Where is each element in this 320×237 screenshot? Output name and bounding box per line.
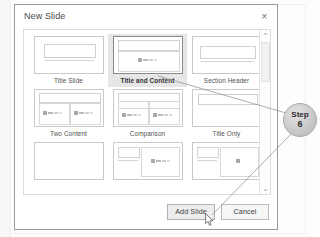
content-placeholder-icon: [43, 111, 62, 115]
step-callout-word: Step: [291, 111, 308, 119]
layout-thumbnail[interactable]: [192, 36, 262, 74]
content-placeholder-icon: [122, 113, 141, 117]
layout-thumbnail[interactable]: [192, 89, 262, 127]
content-placeholder-icon: [138, 58, 157, 62]
layout-option-comparison[interactable]: Comparison: [108, 87, 187, 140]
layout-thumbnail[interactable]: [113, 36, 183, 74]
dialog-title-bar: New Slide ×: [15, 5, 277, 30]
layout-option-label: Two Content: [50, 130, 87, 137]
picture-placeholder-icon: [236, 159, 240, 163]
layout-option-title-and-content[interactable]: Title and Content: [108, 34, 187, 87]
layout-thumbnail[interactable]: [34, 142, 104, 180]
layout-option-label: Title Only: [213, 130, 241, 137]
layout-thumbnail[interactable]: [192, 142, 262, 180]
layout-gallery-panel[interactable]: Title SlideTitle and ContentSection Head…: [23, 29, 271, 195]
thumb-caption-title: [118, 147, 140, 158]
layout-option-label: Title Slide: [54, 77, 83, 84]
layout-option-label: Comparison: [130, 130, 165, 137]
thumb-caption-line: [197, 160, 217, 161]
layout-gallery-grid: Title SlideTitle and ContentSection Head…: [24, 30, 270, 192]
layout-thumbnail[interactable]: [113, 142, 183, 180]
new-slide-dialog: New Slide × Title SlideTitle and Content…: [14, 4, 278, 230]
gallery-scrollbar[interactable]: ⌃ ⌄: [259, 30, 270, 194]
thumb-title-box: [200, 46, 256, 59]
layout-option-label: Section Header: [204, 77, 249, 84]
layout-option-blank[interactable]: [29, 140, 108, 192]
page-left-strip: [0, 0, 11, 237]
step-callout-number: 6: [297, 120, 302, 129]
thumb-subtitle-line: [44, 60, 94, 61]
layout-option-section-header[interactable]: Section Header: [187, 34, 266, 87]
layout-option-title-slide[interactable]: Title Slide: [29, 34, 108, 87]
close-icon[interactable]: ×: [258, 10, 271, 23]
thumb-title-box: [118, 40, 180, 51]
layout-thumbnail[interactable]: [113, 89, 183, 127]
layout-row: Two ContentComparisonTitle Only: [26, 87, 268, 140]
layout-option-picture-with-caption[interactable]: [187, 140, 266, 192]
layout-row: Title SlideTitle and ContentSection Head…: [26, 34, 268, 87]
content-placeholder-icon: [74, 111, 93, 115]
scroll-up-icon[interactable]: ⌃: [260, 30, 271, 41]
layout-thumbnail[interactable]: [34, 36, 104, 74]
thumb-caption-line: [118, 160, 138, 161]
layout-option-label: Title and Content: [121, 77, 175, 84]
content-placeholder-icon: [153, 113, 172, 117]
thumb-caption-title: [197, 147, 219, 158]
mouse-cursor-icon: [205, 213, 215, 227]
cancel-button[interactable]: Cancel: [221, 204, 269, 220]
thumb-title-box: [44, 44, 96, 58]
dialog-title: New Slide: [24, 11, 65, 21]
scrollbar-thumb[interactable]: [261, 42, 270, 82]
scroll-down-icon[interactable]: ⌄: [260, 183, 271, 194]
thumb-title-box: [198, 94, 258, 105]
layout-thumbnail[interactable]: [34, 89, 104, 127]
thumb-sub-line: [200, 61, 254, 62]
step-callout-badge: Step 6: [283, 103, 317, 137]
content-placeholder-icon: [151, 159, 170, 163]
layout-option-title-only[interactable]: Title Only: [187, 87, 266, 140]
layout-row: [26, 140, 268, 192]
layout-option-content-with-caption[interactable]: [108, 140, 187, 192]
thumb-title-box: [39, 93, 101, 103]
layout-option-two-content[interactable]: Two Content: [29, 87, 108, 140]
